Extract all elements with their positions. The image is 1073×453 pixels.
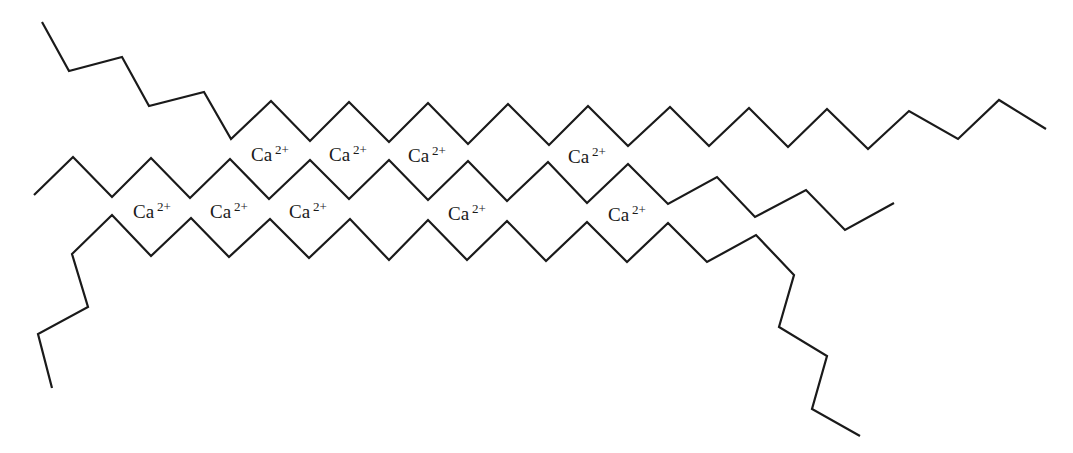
calcium-ion-label: Ca2+ [568,147,606,166]
calcium-ion-label: Ca2+ [448,204,486,223]
calcium-ion-label: Ca2+ [608,205,646,224]
chain-diagram [0,0,1073,453]
calcium-ion-label: Ca2+ [251,145,289,164]
calcium-ion-label: Ca2+ [329,145,367,164]
calcium-ion-label: Ca2+ [210,202,248,221]
calcium-ion-label: Ca2+ [408,146,446,165]
bottom-hydrocarbon-chain [38,215,860,436]
calcium-ion-label: Ca2+ [133,202,171,221]
calcium-ion-label: Ca2+ [289,202,327,221]
top-hydrocarbon-chain [42,22,1046,149]
